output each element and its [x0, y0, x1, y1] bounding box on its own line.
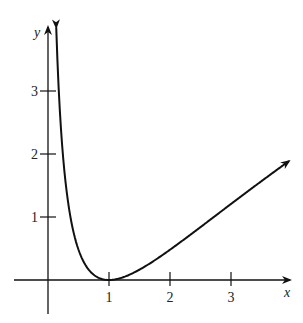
x-tick-label: 1	[106, 290, 113, 305]
y-tick-label: 1	[31, 210, 38, 225]
ticks: 123123	[31, 84, 235, 305]
y-tick-label: 2	[31, 147, 38, 162]
function-plot: 123123 x y	[0, 0, 303, 323]
y-axis-label: y	[32, 25, 41, 40]
axes	[14, 27, 290, 314]
y-tick-label: 3	[31, 84, 38, 99]
x-tick-label: 3	[228, 290, 235, 305]
x-axis-label: x	[283, 285, 291, 300]
x-tick-label: 2	[167, 290, 174, 305]
curve-line	[56, 27, 289, 280]
